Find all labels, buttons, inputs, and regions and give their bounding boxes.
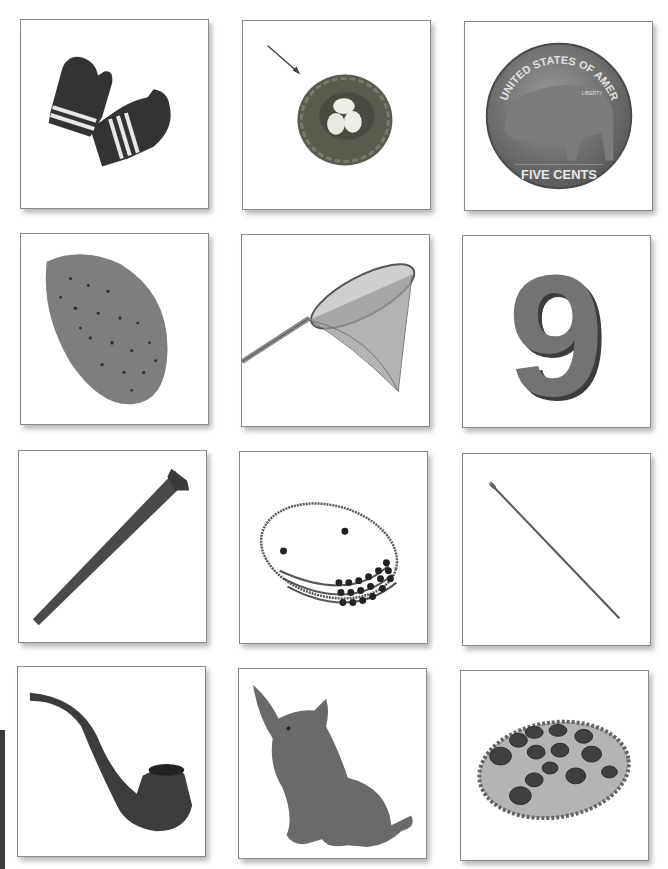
number-nine-icon: 9 9 — [463, 236, 650, 427]
coin-text-bottom: FIVE CENTS — [521, 167, 597, 182]
side-tab — [0, 730, 5, 869]
coin-text-liberty: LIBERTY — [582, 91, 603, 96]
card-needle[interactable]: needle — [462, 453, 651, 646]
pizza-icon — [461, 671, 648, 860]
card-pizza[interactable]: pizza — [460, 670, 649, 861]
card-net[interactable]: net — [241, 234, 430, 427]
butterfly-net-icon — [242, 235, 429, 426]
svg-text:9: 9 — [508, 238, 604, 427]
card-nut[interactable]: nut — [20, 233, 209, 425]
pig-icon — [239, 669, 426, 858]
card-necklace[interactable]: necklace — [239, 451, 428, 644]
almond-nut-icon — [21, 234, 208, 424]
needle-icon — [463, 454, 650, 645]
card-nest[interactable]: nest — [242, 20, 431, 210]
card-mittens[interactable]: mittens — [20, 19, 209, 209]
card-pig[interactable]: pig — [238, 668, 427, 859]
arrow-icon — [268, 46, 299, 73]
nail-icon — [19, 451, 206, 642]
nickel-coin-icon: UNITED STATES OF AMERICA LIBERTY FIVE CE… — [465, 22, 652, 210]
necklace-icon — [240, 452, 427, 643]
card-pipe[interactable]: pipe — [17, 666, 206, 857]
card-nail[interactable]: nail — [18, 450, 207, 643]
card-nine[interactable]: nine 9 9 — [462, 235, 651, 428]
mittens-icon — [21, 20, 208, 208]
nest-icon — [243, 21, 430, 209]
pipe-icon — [18, 667, 205, 856]
card-nickel[interactable]: nickel UNITED STATES OF AMERICA LIBERTY … — [464, 21, 653, 211]
